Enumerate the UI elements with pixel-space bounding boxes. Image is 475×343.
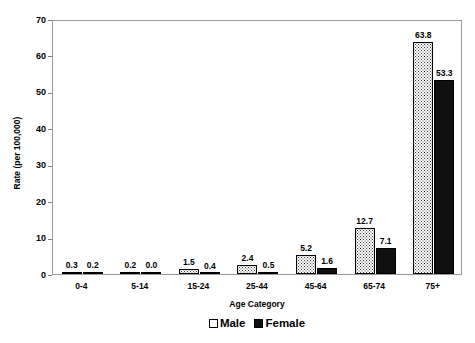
bar-chart-figure: Rate (per 100,000) 010203040506070 0.30.… — [0, 0, 475, 343]
legend-label: Male — [220, 317, 246, 329]
y-axis-tick-labels: 010203040506070 — [22, 0, 46, 343]
bar-value-label: 63.8 — [405, 31, 441, 40]
bar-group: 5.21.6 — [287, 21, 346, 274]
bar-value-label: 12.7 — [347, 217, 383, 226]
legend-item-female[interactable]: Female — [254, 317, 305, 329]
legend-swatch-male-icon — [209, 319, 218, 328]
bar-value-label: 0.5 — [250, 261, 286, 270]
bar-group: 2.40.5 — [229, 21, 288, 274]
bar-group: 12.77.1 — [346, 21, 405, 274]
x-axis-title: Age Category — [52, 299, 462, 309]
y-axis-tick-label: 30 — [24, 161, 46, 170]
y-axis-title: Rate (per 100,000) — [12, 73, 22, 233]
x-axis-tick-label: 65-74 — [345, 281, 404, 291]
x-axis-tick-label: 25-44 — [228, 281, 287, 291]
chart-legend: MaleFemale — [52, 317, 462, 329]
bar-female-5-14 — [141, 272, 161, 274]
bar-female-65-74 — [376, 248, 396, 274]
y-axis-tick-label: 40 — [24, 125, 46, 134]
legend-swatch-female-icon — [254, 319, 263, 328]
bar-female-0-4 — [83, 272, 103, 274]
bar-female-25-44 — [258, 272, 278, 274]
legend-item-male[interactable]: Male — [209, 317, 246, 329]
plot-area: 0.30.20.20.01.50.42.40.55.21.612.77.163.… — [52, 20, 462, 275]
y-axis-tick-label: 10 — [24, 234, 46, 243]
bar-value-label: 7.1 — [368, 237, 404, 246]
bar-group: 0.20.0 — [112, 21, 171, 274]
bar-value-label: 53.3 — [426, 69, 462, 78]
bar-female-15-24 — [200, 272, 220, 274]
x-axis-tick-labels: 0-45-1415-2425-4445-6465-7475+ — [52, 281, 462, 295]
x-axis-tick-label: 45-64 — [286, 281, 345, 291]
y-axis-tick-label: 50 — [24, 88, 46, 97]
bar-group: 0.30.2 — [53, 21, 112, 274]
y-axis-tick-label: 60 — [24, 52, 46, 61]
bar-male-65-74 — [355, 228, 375, 274]
y-axis-tick-mark — [48, 275, 52, 276]
y-axis-tick-label: 20 — [24, 198, 46, 207]
bar-group: 1.50.4 — [170, 21, 229, 274]
bar-male-5-14 — [120, 272, 140, 274]
y-axis-tick-label: 0 — [24, 271, 46, 280]
bar-female-75+ — [434, 80, 454, 274]
legend-label: Female — [265, 317, 305, 329]
bar-value-label: 0.2 — [75, 261, 111, 270]
y-axis-tick-label: 70 — [24, 16, 46, 25]
x-axis-tick-label: 75+ — [403, 281, 462, 291]
bar-female-45-64 — [317, 268, 337, 274]
bar-value-label: 0.4 — [192, 262, 228, 271]
bar-male-0-4 — [62, 272, 82, 274]
x-axis-tick-label: 15-24 — [169, 281, 228, 291]
bar-value-label: 5.2 — [288, 244, 324, 253]
x-axis-tick-label: 0-4 — [52, 281, 111, 291]
x-axis-tick-label: 5-14 — [111, 281, 170, 291]
bar-value-label: 1.6 — [309, 257, 345, 266]
bar-group: 63.853.3 — [404, 21, 463, 274]
bar-value-label: 0.0 — [133, 261, 169, 270]
